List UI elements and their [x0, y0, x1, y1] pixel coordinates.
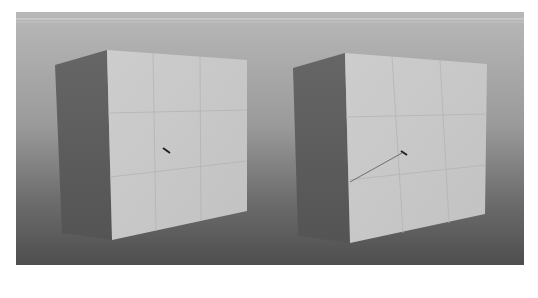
left-cube-side-face: [55, 50, 112, 240]
left-cube-front-face: [107, 50, 247, 240]
left-cube[interactable]: [55, 50, 247, 240]
viewport-canvas[interactable]: [16, 12, 524, 265]
right-cube-front-face: [345, 53, 487, 243]
3d-viewport[interactable]: [16, 12, 524, 265]
right-cube-side-face: [293, 53, 350, 243]
right-cube[interactable]: [293, 53, 487, 243]
